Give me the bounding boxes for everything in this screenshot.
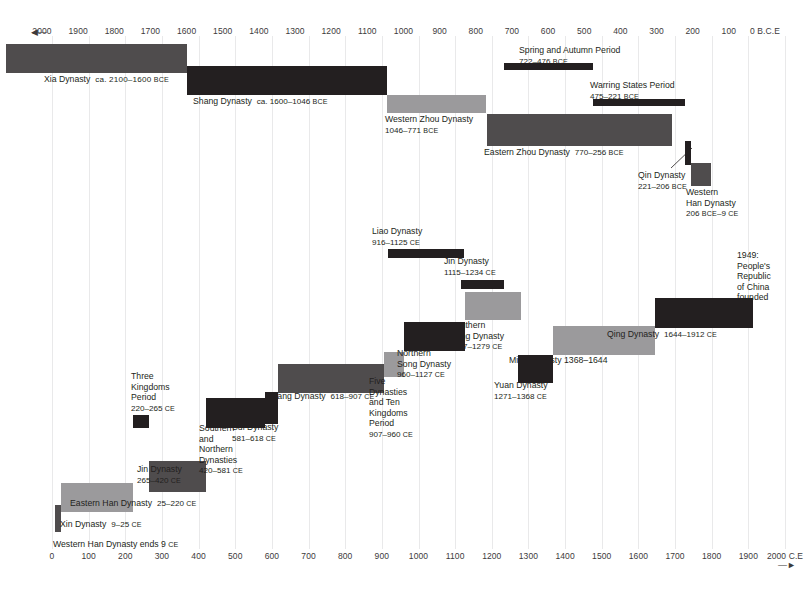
bottom-tick-200: 200: [118, 551, 132, 561]
gridline: [675, 36, 676, 549]
label-qing: Qing Dynasty 1644–1912 CE: [607, 329, 717, 341]
gridline: [52, 36, 53, 549]
label-yuan: Yuan Dynasty1271–1368 CE: [494, 380, 548, 402]
label-shang: Shang Dynasty ca. 1600–1046 BCE: [193, 96, 328, 108]
bottom-tick-100: 100: [81, 551, 95, 561]
top-tick-1400: 1400: [249, 26, 268, 36]
gridline: [125, 36, 126, 549]
label-jin-265: Jin Dynasty265–420 CE: [137, 464, 182, 486]
label-warring-states: Warring States Period475–221 BCE: [590, 80, 675, 102]
bottom-tick-1500: 1500: [592, 551, 611, 561]
top-tick-900: 900: [432, 26, 446, 36]
label-southern-northern: SouthernandNorthernDynasties420–581 CE: [199, 423, 243, 477]
top-tick-0: 0 B.C.E: [750, 26, 780, 36]
bottom-tick-1000: 1000: [409, 551, 428, 561]
top-tick-1700: 1700: [141, 26, 160, 36]
top-tick-500: 500: [577, 26, 591, 36]
annotation-prc-founded: 1949:People'sRepublicof Chinafounded: [737, 250, 771, 303]
bottom-tick-1400: 1400: [555, 551, 574, 561]
bottom-tick-800: 800: [338, 551, 352, 561]
bottom-tick-1200: 1200: [482, 551, 501, 561]
gridline: [272, 36, 273, 549]
top-tick-1000: 1000: [394, 26, 413, 36]
top-tick-1900: 1900: [68, 26, 87, 36]
bottom-tick-1600: 1600: [629, 551, 648, 561]
label-western-han-ends: Western Han Dynasty ends 9 CE: [53, 539, 179, 551]
label-tang: Tang Dynasty 618–907 CE: [273, 391, 375, 403]
axis-right-arrow-icon: —►: [778, 560, 796, 570]
top-tick-1100: 1100: [358, 26, 377, 36]
bottom-tick-2000: 2000 C.E: [767, 551, 803, 561]
bottom-tick-1800: 1800: [702, 551, 721, 561]
top-tick-1200: 1200: [322, 26, 341, 36]
bottom-axis-ce: —► 0100200300400500600700800900100011001…: [0, 551, 809, 565]
top-tick-100: 100: [722, 26, 736, 36]
bar-southern-song-dynasty: [465, 292, 521, 320]
top-tick-700: 700: [505, 26, 519, 36]
bar-western-han-dynasty: [691, 163, 711, 186]
bar-eastern-zhou-dynasty: [487, 114, 673, 146]
label-liao: Liao Dynasty916–1125 CE: [372, 226, 422, 248]
bottom-tick-300: 300: [155, 551, 169, 561]
label-jin-1115: Jin Dynasty1115–1234 CE: [444, 256, 496, 278]
bar-shang-dynasty: [187, 66, 387, 95]
bar-xia-dynasty: [6, 44, 187, 73]
bar-qin-dynasty: [685, 141, 690, 165]
gridline: [712, 36, 713, 549]
gridline: [89, 36, 90, 549]
label-southern-song: SouthernSong Dynasty1127–1279 CE: [450, 320, 504, 353]
bottom-tick-1900: 1900: [739, 551, 758, 561]
top-tick-200: 200: [685, 26, 699, 36]
bottom-tick-1700: 1700: [665, 551, 684, 561]
gridline: [785, 36, 786, 549]
top-tick-1800: 1800: [105, 26, 124, 36]
gridline: [309, 36, 310, 549]
top-axis-bce: ◀— 2000190018001700160015001400130012001…: [0, 26, 809, 40]
bar-jin-dynasty-1115-1234: [461, 280, 505, 289]
label-qin: Qin Dynasty221–206 BCE: [638, 170, 687, 192]
dynasty-timeline-chart: ◀— 2000190018001700160015001400130012001…: [0, 0, 809, 592]
label-three-kingdoms: ThreeKingdomsPeriod220–265 CE: [131, 371, 175, 414]
bar-three-kingdoms-period: [133, 415, 149, 428]
bottom-tick-600: 600: [265, 551, 279, 561]
label-spring-autumn: Spring and Autumn Period722–476 BCE: [519, 45, 620, 67]
top-tick-2000: 2000: [32, 26, 51, 36]
label-eastern-han: Eastern Han Dynasty 25–220 CE: [70, 498, 196, 510]
bottom-tick-0: 0: [50, 551, 55, 561]
top-tick-1500: 1500: [213, 26, 232, 36]
top-tick-600: 600: [541, 26, 555, 36]
top-tick-800: 800: [469, 26, 483, 36]
label-ming: Ming Dynasty 1368–1644: [509, 355, 608, 366]
gridline: [345, 36, 346, 549]
bottom-tick-1300: 1300: [519, 551, 538, 561]
label-western-han: WesternHan Dynasty206 BCE–9 CE: [686, 187, 738, 220]
label-eastern-zhou: Eastern Zhou Dynasty 770–256 BCE: [484, 147, 624, 159]
gridline: [602, 36, 603, 549]
label-five-dynasties: FiveDynastiesand TenKingdomsPeriod907–96…: [369, 376, 413, 441]
label-western-zhou: Western Zhou Dynasty1046–771 BCE: [385, 114, 473, 136]
gridline: [565, 36, 566, 549]
gridline: [638, 36, 639, 549]
bottom-tick-400: 400: [191, 551, 205, 561]
top-tick-1300: 1300: [285, 26, 304, 36]
bottom-tick-700: 700: [301, 551, 315, 561]
bottom-tick-1100: 1100: [446, 551, 465, 561]
label-xia: Xia Dynasty ca. 2100–1600 BCE: [44, 74, 169, 86]
top-tick-1600: 1600: [177, 26, 196, 36]
label-xin: Xin Dynasty 9–25 CE: [60, 519, 142, 531]
top-tick-300: 300: [649, 26, 663, 36]
gridline: [528, 36, 529, 549]
top-tick-400: 400: [613, 26, 627, 36]
bar-western-zhou-dynasty: [387, 95, 486, 113]
gridline: [382, 36, 383, 549]
bottom-tick-900: 900: [375, 551, 389, 561]
bottom-tick-500: 500: [228, 551, 242, 561]
